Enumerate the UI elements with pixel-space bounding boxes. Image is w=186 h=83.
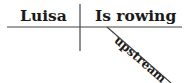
subject-word: Luisa xyxy=(20,8,67,24)
sentence-diagram: Luisa Is rowing upstream xyxy=(0,0,186,83)
predicate-word: Is rowing xyxy=(95,8,176,24)
